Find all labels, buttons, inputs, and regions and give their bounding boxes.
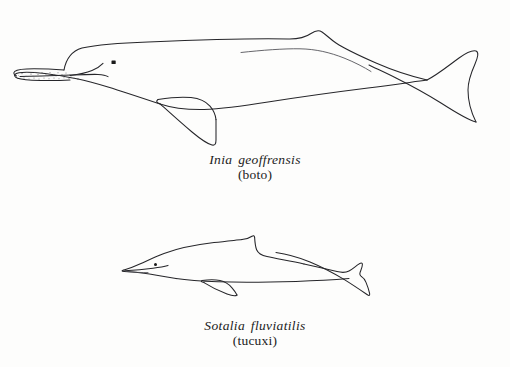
boto-flipper-trailing-edge — [160, 104, 216, 145]
caption-tucuxi: Sotalia fluviatilis (tucuxi) — [0, 318, 510, 349]
caption-boto: Inia geoffrensis (boto) — [0, 152, 510, 183]
figure-boto — [0, 18, 510, 143]
tucuxi-common-name: (tucuxi) — [0, 333, 510, 349]
boto-belly-to-throat-outline — [78, 79, 204, 110]
boto-tail-upper-edge — [427, 51, 478, 122]
illustration-plate: Inia geoffrensis (boto) — [0, 0, 510, 367]
boto-flipper-leading-edge — [158, 97, 216, 119]
tucuxi-tail-upper-edge — [304, 263, 362, 277]
tucuxi-flipper-trailing-edge — [204, 283, 237, 296]
tucuxi-dorsal-outline — [124, 240, 242, 270]
tucuxi-fluke-trailing-edge — [344, 277, 370, 296]
tucuxi-lower-jaw-outline — [122, 270, 176, 279]
boto-ventral-outline — [204, 80, 427, 110]
boto-scientific-name: Inia geoffrensis — [0, 152, 510, 167]
tucuxi-gape-crease — [126, 271, 148, 272]
tucuxi-drawing — [120, 234, 395, 314]
figure-tucuxi — [120, 234, 395, 314]
boto-drawing — [0, 18, 510, 143]
tucuxi-eye-icon — [154, 263, 157, 266]
tucuxi-scientific-name: Sotalia fluviatilis — [0, 318, 510, 333]
tucuxi-fluke-inner-edge — [276, 253, 344, 280]
boto-gape-curve — [70, 63, 103, 75]
boto-dorsal-outline — [64, 31, 427, 80]
tucuxi-dorsal-fin-leading-edge — [242, 236, 255, 240]
boto-eye-icon — [112, 61, 116, 65]
boto-fluke-lower-lobe — [369, 65, 476, 122]
boto-common-name: (boto) — [0, 167, 510, 183]
tucuxi-dorsal-fin-trailing-edge — [255, 237, 304, 264]
